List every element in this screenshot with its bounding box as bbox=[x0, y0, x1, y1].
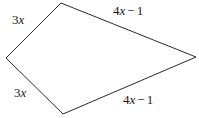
quadrilateral-outline bbox=[6, 3, 196, 114]
variable-text: x bbox=[21, 85, 27, 100]
constant-text: 1 bbox=[147, 92, 154, 107]
geometry-figure: 3x 4x−1 3x 4x−1 bbox=[0, 0, 199, 118]
side-label-top-right: 4x−1 bbox=[113, 4, 143, 17]
quadrilateral-shape bbox=[0, 0, 199, 118]
constant-text: 1 bbox=[137, 3, 144, 18]
minus-sign: − bbox=[125, 3, 136, 18]
minus-sign: − bbox=[135, 92, 146, 107]
side-label-bottom-right: 4x−1 bbox=[123, 93, 153, 106]
side-label-bottom-left: 3x bbox=[14, 86, 26, 99]
variable-text: x bbox=[19, 12, 25, 27]
side-label-top-left: 3x bbox=[12, 13, 24, 26]
